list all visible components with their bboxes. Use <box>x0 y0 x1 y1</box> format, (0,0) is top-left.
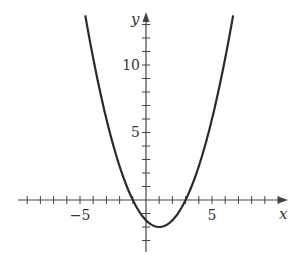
y-axis-arrow-icon <box>143 12 150 22</box>
x-axis-arrow-icon <box>278 197 288 204</box>
ticks <box>27 25 278 241</box>
y-tick-label-10: 10 <box>122 57 140 73</box>
axes <box>18 12 288 252</box>
y-tick-label-5: 5 <box>131 124 140 140</box>
y-axis-label: y <box>130 10 140 28</box>
parabola-chart: −5 5 5 10 x y <box>0 0 298 268</box>
x-tick-label-5: 5 <box>208 207 217 223</box>
parabola-curve <box>85 15 233 227</box>
x-tick-label-neg5: −5 <box>70 207 91 223</box>
x-axis-label: x <box>279 205 288 223</box>
